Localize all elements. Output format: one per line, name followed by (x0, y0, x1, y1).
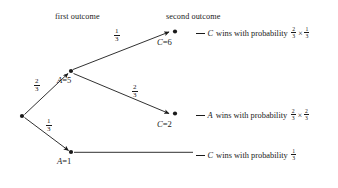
probability-tree-figure: first outcome second outcome A=5 C=6 C=2… (0, 0, 338, 188)
column-header-first-outcome: first outcome (55, 12, 100, 21)
node-label-a1-value: 1 (67, 156, 71, 166)
outcome-bottom-prob-term-1: 13 (291, 148, 296, 161)
outcome-mid-term2-numerator: 2 (304, 108, 309, 115)
outcome-mid-operator: × (296, 112, 303, 120)
outcome-c-wins-top: Cwins with probability23×13 (196, 26, 310, 39)
outcome-top-winner: C (208, 29, 214, 38)
outcome-top-term1-numerator: 2 (291, 26, 296, 33)
node-label-a5: A=5 (57, 75, 71, 85)
outcome-top-term2-denominator: 3 (304, 33, 309, 39)
node-a5 (69, 69, 73, 73)
outcome-top-prob-term-2: 13 (304, 26, 309, 39)
outcome-mid-term1-numerator: 2 (291, 108, 296, 115)
node-label-c2-value: 2 (168, 119, 172, 129)
node-a1 (69, 150, 73, 154)
edge-label-root-to-a1-denominator: 3 (46, 126, 52, 133)
outcome-mid-leader-dash (196, 115, 205, 116)
edge-a5-to-c6 (73, 32, 169, 70)
outcome-bottom-text: wins with probability (216, 151, 288, 160)
outcome-mid-term1-denominator: 3 (291, 115, 296, 121)
outcome-c-wins-bottom: Cwins with probability13 (196, 148, 297, 161)
outcome-mid-text: wins with probability (216, 111, 288, 120)
node-c6 (173, 29, 177, 33)
outcome-mid-prob-term-1: 23 (291, 108, 296, 121)
node-c2 (173, 111, 177, 115)
outcome-top-prob-term-1: 23 (291, 26, 296, 39)
edge-label-root-to-a1: 1 3 (46, 118, 52, 133)
outcome-bottom-term1-denominator: 3 (291, 155, 296, 161)
outcome-mid-winner: A (208, 111, 213, 120)
node-root (20, 114, 24, 118)
edge-label-root-to-a5-denominator: 3 (34, 86, 40, 93)
column-header-second-outcome: second outcome (166, 12, 220, 21)
outcome-top-text: wins with probability (216, 29, 288, 38)
edge-label-a5-to-c2: 2 3 (132, 84, 138, 99)
edge-a5-to-c2 (74, 74, 170, 114)
node-label-a1: A=1 (57, 156, 71, 166)
edge-label-root-to-a5: 2 3 (34, 78, 40, 93)
node-label-a5-value: 5 (67, 75, 71, 85)
outcome-mid-prob-term-2: 23 (304, 108, 309, 121)
edge-label-a5-to-c2-denominator: 3 (132, 92, 138, 99)
outcome-bottom-term1-numerator: 1 (291, 148, 296, 155)
node-label-c2: C=2 (157, 119, 172, 129)
edge-label-a5-to-c6-denominator: 3 (114, 36, 120, 43)
outcome-top-term2-numerator: 1 (304, 26, 309, 33)
outcome-top-leader-dash (196, 33, 205, 34)
outcome-bottom-leader-dash (196, 155, 205, 156)
node-label-c6-value: 6 (168, 37, 172, 47)
outcome-top-operator: × (297, 30, 304, 38)
outcome-mid-term2-denominator: 3 (304, 115, 309, 121)
outcome-top-term1-denominator: 3 (291, 33, 296, 39)
outcome-a-wins-mid: Awins with probability23×23 (196, 108, 309, 121)
edge-label-a5-to-c6: 1 3 (114, 28, 120, 43)
outcome-bottom-winner: C (208, 151, 214, 160)
node-label-c6: C=6 (157, 37, 172, 47)
